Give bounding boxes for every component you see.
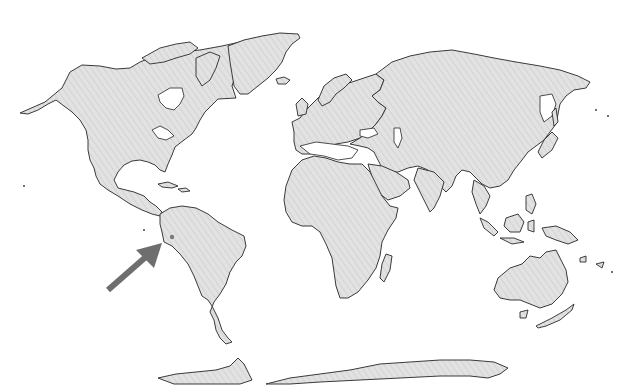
borneo xyxy=(504,214,524,232)
tasmania xyxy=(520,310,528,318)
pacific-island-speck xyxy=(143,229,145,231)
madagascar xyxy=(380,254,392,282)
iceland xyxy=(276,77,290,84)
antarctica-west xyxy=(158,358,252,384)
pacific-island-speck xyxy=(23,185,25,187)
world-map xyxy=(0,0,630,392)
sulawesi xyxy=(528,220,534,232)
pacific-island xyxy=(580,256,586,262)
south-america xyxy=(160,206,246,344)
new-guinea xyxy=(542,226,578,244)
hispaniola xyxy=(178,188,190,192)
pacific-island xyxy=(596,262,604,268)
great-britain xyxy=(296,98,308,116)
greenland xyxy=(228,33,300,94)
antarctica-east xyxy=(266,360,508,384)
australia xyxy=(494,250,568,308)
sumatra xyxy=(480,218,498,236)
philippines xyxy=(526,194,536,214)
pacific-island-speck xyxy=(611,271,613,273)
pointer-arrow xyxy=(108,243,162,290)
cuba xyxy=(158,182,178,188)
location-marker-dot xyxy=(170,235,174,239)
pacific-island-speck xyxy=(595,109,597,111)
pacific-island-speck xyxy=(607,115,609,117)
java xyxy=(500,238,524,244)
